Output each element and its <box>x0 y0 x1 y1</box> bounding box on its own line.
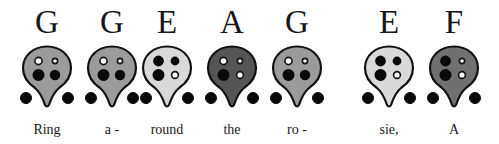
hole-top-right <box>117 58 122 63</box>
lyric-syllable: sie, <box>354 121 424 139</box>
fingering-column-7: F A <box>419 0 489 144</box>
thumb-hole-left <box>428 93 439 104</box>
thumb-hole-right <box>405 93 416 104</box>
fingering-column-6: E sie, <box>354 0 424 144</box>
ocarina-icon <box>20 45 74 109</box>
hole-bottom-right <box>459 72 466 79</box>
hole-bottom-left <box>33 70 43 80</box>
ocarina-icon <box>427 45 481 109</box>
note-letter: F <box>419 4 489 40</box>
hole-bottom-left <box>440 70 450 80</box>
lyric-syllable: A <box>419 121 489 139</box>
hole-bottom-left <box>283 70 293 80</box>
thumb-hole-left <box>271 93 282 104</box>
thumb-hole-right <box>470 93 481 104</box>
ocarina-icon <box>270 45 324 109</box>
hole-top-left <box>100 57 107 64</box>
hole-top-right <box>302 58 307 63</box>
hole-top-left <box>35 57 42 64</box>
hole-bottom-left <box>218 70 228 80</box>
hole-bottom-right <box>51 71 60 80</box>
hole-bottom-right <box>394 72 401 79</box>
fingering-column-4: A the <box>197 0 267 144</box>
thumb-hole-right <box>183 93 194 104</box>
lyric-syllable: ro - <box>262 121 332 139</box>
hole-bottom-right <box>237 72 244 79</box>
thumb-hole-right <box>63 93 74 104</box>
thumb-hole-right <box>248 93 259 104</box>
thumb-hole-left <box>86 93 97 104</box>
ocarina-icon <box>140 45 194 109</box>
hole-bottom-left <box>375 70 385 80</box>
lyric-syllable: Ring <box>12 121 82 139</box>
hole-bottom-left <box>153 70 163 80</box>
hole-bottom-right <box>116 71 125 80</box>
thumb-hole-right <box>313 93 324 104</box>
lyric-syllable: the <box>197 121 267 139</box>
ocarina-icon <box>362 45 416 109</box>
hole-top-right <box>393 57 400 64</box>
note-letter: G <box>262 4 332 40</box>
fingering-column-5: G ro - <box>262 0 332 144</box>
fingering-column-1: G Ring <box>12 0 82 144</box>
hole-top-left <box>376 56 385 65</box>
note-letter: A <box>197 4 267 40</box>
hole-top-right <box>459 58 464 63</box>
hole-bottom-left <box>98 70 108 80</box>
hole-top-left <box>441 56 450 65</box>
hole-top-left <box>285 57 292 64</box>
lyric-syllable: round <box>132 121 202 139</box>
thumb-hole-left <box>21 93 32 104</box>
hole-bottom-right <box>301 71 310 80</box>
fingering-column-3: E round <box>132 0 202 144</box>
note-letter: G <box>12 4 82 40</box>
thumb-hole-left <box>363 93 374 104</box>
hole-top-right <box>171 57 178 64</box>
hole-top-right <box>237 58 242 63</box>
hole-bottom-right <box>172 72 179 79</box>
note-letter: E <box>354 4 424 40</box>
ocarina-icon <box>205 45 259 109</box>
note-letter: E <box>132 4 202 40</box>
thumb-hole-left <box>141 93 152 104</box>
ocarina-icon <box>85 45 139 109</box>
hole-top-right <box>52 58 57 63</box>
hole-top-left <box>154 56 163 65</box>
thumb-hole-left <box>206 93 217 104</box>
hole-top-left <box>220 57 227 64</box>
